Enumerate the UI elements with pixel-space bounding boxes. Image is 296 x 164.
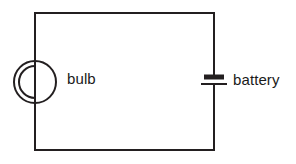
battery-icon <box>201 77 227 84</box>
bulb-label: bulb <box>67 71 96 86</box>
battery-label: battery <box>233 72 280 87</box>
circuit-diagram: bulb battery <box>0 0 296 164</box>
bulb-filament-arc <box>19 66 35 98</box>
